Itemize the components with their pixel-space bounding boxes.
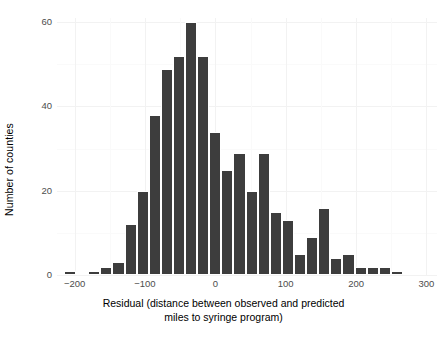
histogram-bar — [379, 267, 391, 275]
x-tick-label-0: −200 — [64, 279, 85, 289]
x-axis-tick-labels: −200−1000100200300 — [57, 279, 437, 293]
histogram-bar — [233, 153, 245, 275]
y-tick-label-20: 20 — [26, 186, 52, 196]
histogram-bar — [125, 224, 137, 275]
x-axis-title: Residual (distance between observed and … — [0, 296, 447, 324]
histogram-bar — [258, 153, 270, 275]
y-axis-title: Number of counties — [0, 0, 24, 339]
histogram-bar — [64, 271, 76, 275]
bar-series — [57, 18, 437, 275]
histogram-bar — [270, 212, 282, 275]
histogram-bar — [149, 115, 161, 275]
x-tick-label-4: 200 — [348, 279, 364, 289]
x-tick-label-2: 0 — [213, 279, 218, 289]
gridline-y-0 — [57, 275, 437, 276]
histogram-bar — [137, 191, 149, 275]
y-tick-label-60: 60 — [26, 17, 52, 27]
x-axis-title-line-2: miles to syringe program) — [0, 310, 447, 324]
histogram-bar — [100, 267, 112, 275]
y-tick-label-0: 0 — [26, 270, 52, 280]
histogram-bar — [391, 271, 403, 275]
x-tick-label-1: −100 — [134, 279, 155, 289]
histogram-bar — [197, 56, 209, 275]
histogram-bar — [88, 271, 100, 275]
plot-panel — [57, 18, 437, 275]
histogram-bar — [282, 220, 294, 275]
x-tick-label-3: 100 — [278, 279, 294, 289]
histogram-bar — [221, 170, 233, 275]
histogram-bar — [306, 237, 318, 275]
histogram-bar — [294, 254, 306, 275]
histogram-bar — [246, 191, 258, 275]
x-axis-title-line-1: Residual (distance between observed and … — [0, 296, 447, 310]
histogram-bar — [342, 254, 354, 275]
y-axis-title-text: Number of counties — [3, 123, 21, 216]
histogram-bar — [161, 69, 173, 275]
histogram-bar — [209, 132, 221, 275]
y-axis-tick-labels: 0204060 — [24, 0, 52, 339]
x-tick-label-5: 300 — [419, 279, 435, 289]
histogram-bar — [318, 208, 330, 275]
histogram-bar — [355, 267, 367, 275]
histogram-bar — [367, 267, 379, 275]
histogram-bar — [185, 22, 197, 275]
histogram-figure: Number of counties 0204060 −200−10001002… — [0, 0, 447, 339]
histogram-bar — [112, 262, 124, 275]
histogram-bar — [330, 258, 342, 275]
y-tick-label-40: 40 — [26, 101, 52, 111]
histogram-bar — [173, 56, 185, 275]
